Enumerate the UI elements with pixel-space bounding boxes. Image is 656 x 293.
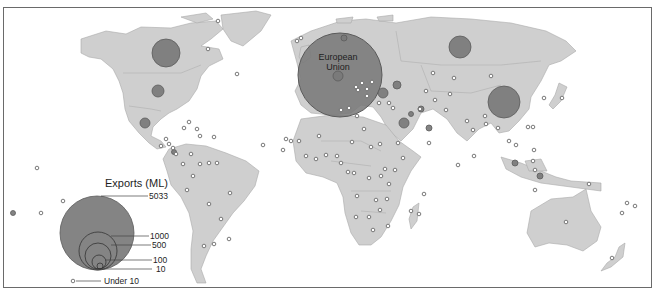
landmass-madagascar <box>409 203 419 229</box>
landmass-south-america <box>163 144 259 283</box>
legend: Exports (ML) 5033 1000 500 100 10 Under … <box>60 177 169 286</box>
legend-label-10: 10 <box>156 264 166 274</box>
legend-bubble-5033 <box>60 196 134 270</box>
landmass-japan <box>549 83 567 109</box>
bubble-saudi-arabia[interactable] <box>399 118 409 128</box>
bubble-eu-inner[interactable] <box>333 71 343 81</box>
bubble-malaysia[interactable] <box>537 173 543 179</box>
eu-label-line1: European <box>318 52 357 62</box>
bubble-russia[interactable] <box>449 36 471 58</box>
bubble-kuwait[interactable] <box>409 112 414 117</box>
bubble-china[interactable] <box>488 86 520 118</box>
bubble-uae[interactable] <box>426 125 432 131</box>
world-map: European Union <box>4 8 651 287</box>
legend-label-5033: 5033 <box>149 191 168 201</box>
map-frame: European Union <box>3 7 652 288</box>
legend-title: Exports (ML) <box>105 177 168 189</box>
bubble-united-states[interactable] <box>152 85 164 97</box>
bubble-thailand[interactable] <box>512 160 518 166</box>
bubble-turkey[interactable] <box>378 88 388 98</box>
bubble-mexico[interactable] <box>140 118 150 128</box>
eu-label-line2: Union <box>326 62 350 72</box>
legend-label-under-10: Under 10 <box>104 276 139 286</box>
legend-label-500: 500 <box>152 240 166 250</box>
bubble-georgia[interactable] <box>393 81 401 89</box>
bubble-pacific-island[interactable] <box>11 211 16 216</box>
bubble-canada[interactable] <box>152 39 180 67</box>
landmass-north-america <box>81 21 223 149</box>
landmass-australia <box>527 189 601 251</box>
landmass-greenland <box>221 11 271 46</box>
bubble-scandinavia[interactable] <box>341 35 347 41</box>
